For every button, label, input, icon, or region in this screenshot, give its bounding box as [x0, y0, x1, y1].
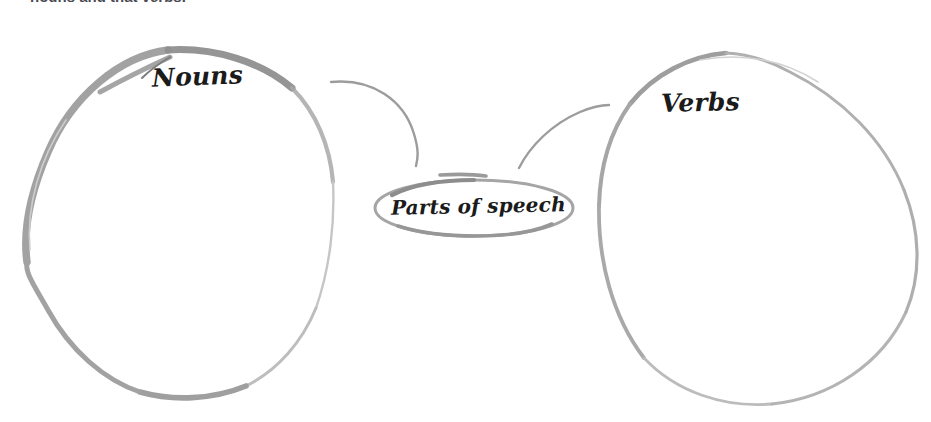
node-label-nouns: Nouns — [151, 60, 243, 92]
parts-ellipse-overshoot-stub — [440, 174, 486, 176]
nouns-oval-stroke-bottom — [140, 386, 246, 398]
nouns-oval-stroke-right — [316, 182, 333, 308]
verbs-oval-stroke-top-right — [726, 53, 904, 190]
connector-parts-to-verbs[interactable] — [519, 105, 609, 168]
node-label-verbs: Verbs — [661, 87, 740, 118]
diagram-canvas: nouns and that verbs. — [0, 0, 931, 422]
verbs-oval-stroke-right — [904, 190, 917, 312]
node-label-parts-of-speech: Parts of speech — [391, 192, 566, 220]
nouns-oval-stroke-top-right — [292, 88, 333, 182]
nouns-oval-stroke-bottom-left — [27, 262, 140, 392]
connector-parts-to-nouns[interactable] — [331, 82, 418, 166]
nouns-oval-stroke-upper-left — [26, 50, 168, 262]
verbs-oval-stroke-bottom-right — [772, 312, 906, 404]
node-verbs[interactable] — [599, 53, 917, 405]
verbs-oval-stroke-lower-left — [599, 206, 644, 358]
verbs-oval-stroke-bottom — [644, 358, 772, 405]
verbs-oval-stroke-left — [599, 104, 630, 206]
nouns-oval-stroke-lower-right — [246, 308, 316, 386]
node-nouns[interactable] — [26, 50, 334, 398]
